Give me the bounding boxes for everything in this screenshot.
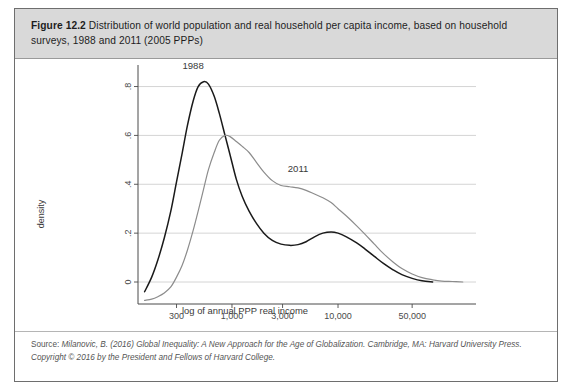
figure-number: Figure 12.2: [31, 20, 86, 31]
y-axis-title: density: [36, 174, 46, 254]
svg-text:0: 0: [123, 280, 133, 285]
svg-text:.8: .8: [123, 83, 133, 91]
svg-text:2011: 2011: [288, 163, 309, 174]
figure-container: Figure 12.2 Distribution of world popula…: [14, 8, 558, 382]
source-text: Milanovic, B. (2016) Global Inequality: …: [31, 340, 522, 362]
figure-caption: Figure 12.2 Distribution of world popula…: [31, 18, 543, 48]
figure-page: Figure 12.2 Distribution of world popula…: [0, 0, 572, 390]
caption-band: Figure 12.2 Distribution of world popula…: [15, 9, 557, 59]
chart-series: [145, 82, 463, 301]
chart-gridlines: [138, 87, 476, 282]
series-annotations: 19882011: [182, 60, 308, 174]
svg-text:.6: .6: [123, 132, 133, 140]
svg-text:1988: 1988: [182, 60, 203, 71]
figure-caption-text: Distribution of world population and rea…: [31, 20, 507, 46]
svg-text:.4: .4: [123, 181, 133, 189]
y-axis-ticks: 0.2.4.6.8: [123, 83, 138, 285]
source-note: Source: Milanovic, B. (2016) Global Ineq…: [31, 339, 547, 364]
chart-plot-area: 0.2.4.6.8 3001,0003,00010,00050,000 1988…: [15, 59, 557, 327]
svg-text:.2: .2: [123, 229, 133, 237]
density-line-chart: 0.2.4.6.8 3001,0003,00010,00050,000 1988…: [15, 59, 557, 327]
source-divider: [15, 331, 557, 332]
x-axis-title: log of annual PPP real income: [15, 305, 475, 316]
source-prefix: Source:: [31, 340, 59, 349]
